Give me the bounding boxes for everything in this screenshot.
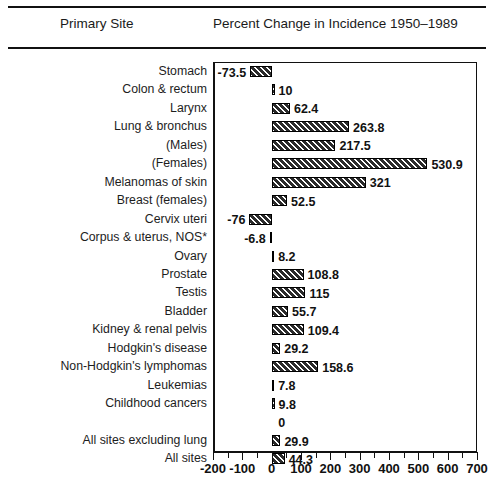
category-label: Childhood cancers <box>0 397 207 410</box>
bar-value-label: 321 <box>370 177 391 189</box>
header-rule-top <box>8 6 486 8</box>
bar <box>272 324 304 335</box>
bar <box>272 435 281 446</box>
x-axis-major-tick <box>389 452 390 460</box>
bar <box>272 251 275 262</box>
category-label: All sites excluding lung <box>0 434 207 447</box>
column-header-percent-change: Percent Change in Incidence 1950–1989 <box>213 16 458 31</box>
bar-value-label: 10 <box>279 85 293 97</box>
x-axis-minor-tick <box>257 452 258 458</box>
bar <box>272 343 281 354</box>
category-label: Kidney & renal pelvis <box>0 323 207 336</box>
category-label: Stomach <box>0 65 207 78</box>
chart-figure: Primary Site Percent Change in Incidence… <box>0 0 494 489</box>
category-label: Bladder <box>0 305 207 318</box>
bar-value-label: 9.8 <box>279 399 296 411</box>
category-label: Leukemias <box>0 379 207 392</box>
column-header-primary-site: Primary Site <box>60 16 134 31</box>
bar-value-label: 7.8 <box>278 380 295 392</box>
x-axis-tick-label: -200 <box>200 461 226 476</box>
bar <box>249 214 271 225</box>
x-axis-tick-label: 200 <box>319 461 341 476</box>
bar-value-label: 0 <box>278 417 285 429</box>
x-axis-major-tick <box>418 452 419 460</box>
bar <box>272 121 349 132</box>
bar-value-label: 62.4 <box>294 103 318 115</box>
bar-value-label: 55.7 <box>292 306 316 318</box>
bar-value-label: 263.8 <box>353 122 384 134</box>
category-label: All sites <box>0 452 207 465</box>
x-axis-minor-tick <box>228 452 229 458</box>
x-axis-minor-tick <box>404 452 405 458</box>
x-axis-major-tick <box>301 452 302 460</box>
bar <box>272 306 288 317</box>
bar <box>272 84 275 95</box>
x-axis-tick-label: 300 <box>349 461 371 476</box>
category-label: Cervix uteri <box>0 213 207 226</box>
category-label: Melanomas of skin <box>0 176 207 189</box>
bar-value-label: 108.8 <box>308 269 339 281</box>
category-label: Hodgkin's disease <box>0 342 207 355</box>
bar <box>272 380 275 391</box>
x-axis-tick-label: 0 <box>268 461 275 476</box>
bar <box>272 103 290 114</box>
bar-value-label: 158.6 <box>322 362 353 374</box>
bar <box>272 361 319 372</box>
bar-value-label: -73.5 <box>218 67 247 79</box>
category-label: Corpus & uterus, NOS* <box>0 231 207 244</box>
bar-value-label: 115 <box>309 288 329 300</box>
x-axis-major-tick <box>360 452 361 460</box>
x-axis-minor-tick <box>286 452 287 458</box>
bar-value-label: 29.9 <box>284 436 308 448</box>
category-label: Testis <box>0 286 207 299</box>
x-axis-tick-label: 500 <box>407 461 429 476</box>
bar <box>272 269 304 280</box>
x-axis-tick-label: 100 <box>290 461 312 476</box>
header-rule-bottom <box>8 47 486 49</box>
category-label: Colon & rectum <box>0 83 207 96</box>
x-axis-minor-tick <box>374 452 375 458</box>
x-axis-tick-label: 400 <box>378 461 400 476</box>
x-axis-major-tick <box>477 452 478 460</box>
x-axis-major-tick <box>272 452 273 460</box>
bar-value-label: -76 <box>227 214 245 226</box>
x-axis-minor-tick <box>433 452 434 458</box>
bar <box>272 398 275 409</box>
x-axis-major-tick <box>448 452 449 460</box>
bar <box>272 195 287 206</box>
bar-value-label: 109.4 <box>308 325 339 337</box>
bar-value-label: 52.5 <box>291 196 315 208</box>
category-label: Lung & bronchus <box>0 120 207 133</box>
category-label: Breast (females) <box>0 194 207 207</box>
x-axis-major-tick <box>242 452 243 460</box>
bar <box>250 66 272 77</box>
bar <box>272 158 428 169</box>
bar-value-label: 217.5 <box>339 140 370 152</box>
bar <box>272 177 366 188</box>
x-axis-major-tick <box>213 452 214 460</box>
x-axis-minor-tick <box>316 452 317 458</box>
category-label: Ovary <box>0 250 207 263</box>
bar-value-label: -6.8 <box>244 233 266 245</box>
x-axis-tick-label: 600 <box>437 461 459 476</box>
x-axis-tick-label: 700 <box>466 461 488 476</box>
bar-value-label: 8.2 <box>278 251 295 263</box>
category-label: Non-Hodgkin's lymphomas <box>0 360 207 373</box>
x-axis-major-tick <box>330 452 331 460</box>
category-label: (Males) <box>0 139 207 152</box>
bar <box>272 140 336 151</box>
category-label: Prostate <box>0 268 207 281</box>
bar <box>272 287 306 298</box>
x-axis-minor-tick <box>345 452 346 458</box>
bar-value-label: 530.9 <box>431 159 462 171</box>
bar-value-label: 29.2 <box>284 343 308 355</box>
bar <box>270 232 273 243</box>
category-label: (Females) <box>0 157 207 170</box>
x-axis-tick-label: -100 <box>229 461 255 476</box>
category-label: Larynx <box>0 102 207 115</box>
x-axis-minor-tick <box>462 452 463 458</box>
